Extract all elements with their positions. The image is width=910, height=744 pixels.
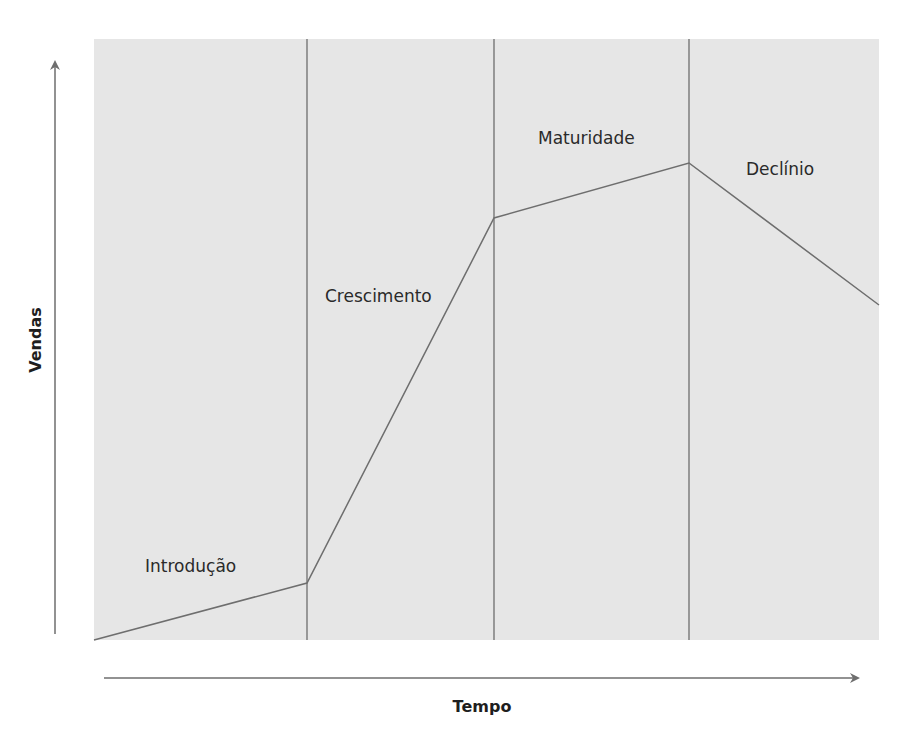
phase-label-maturidade: Maturidade [538, 128, 635, 148]
x-axis-label: Tempo [453, 697, 512, 716]
phase-label-introducao: Introdução [145, 556, 236, 576]
plot-panel [94, 39, 879, 640]
phase-label-declinio: Declínio [746, 159, 814, 179]
phase-label-crescimento: Crescimento [325, 286, 432, 306]
y-axis-label: Vendas [26, 307, 45, 373]
product-life-cycle-diagram: Introdução Crescimento Maturidade Declín… [0, 0, 910, 744]
